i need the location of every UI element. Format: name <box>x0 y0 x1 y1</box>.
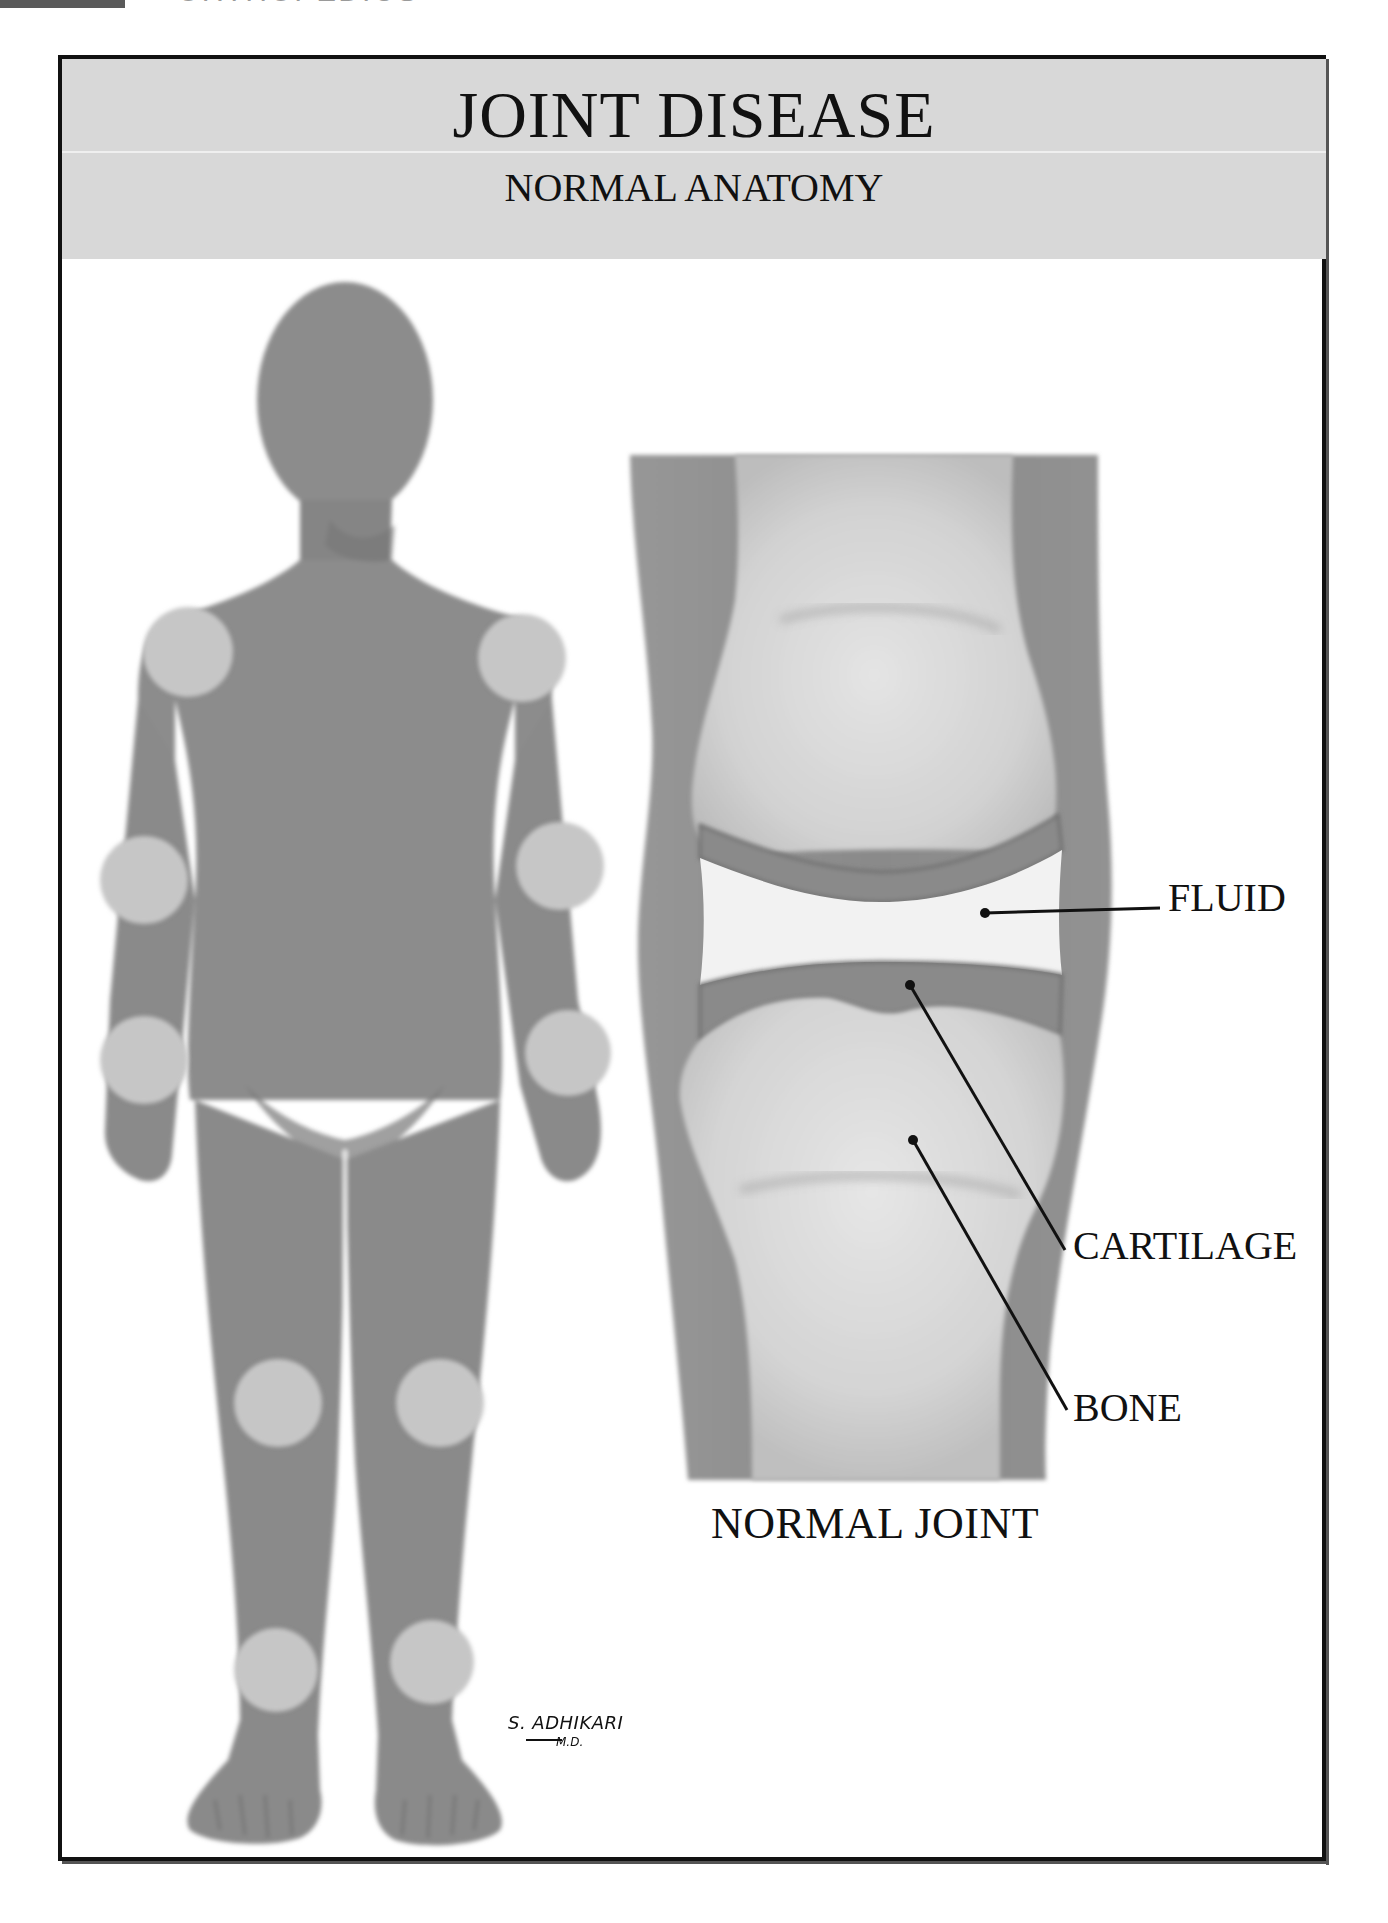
left-leg <box>345 1100 502 1845</box>
signature-name: S. ADHIKARI <box>508 1712 623 1733</box>
signature-underline <box>526 1739 562 1741</box>
femur <box>692 455 1057 855</box>
joint-left-ankle <box>390 1620 474 1704</box>
cartilage-dot <box>905 980 915 990</box>
joint-left-shoulder <box>478 614 566 702</box>
joint-left-wrist <box>525 1010 611 1096</box>
artist-signature: S. ADHIKARI M.D. <box>508 1712 623 1749</box>
joint-right-wrist <box>100 1016 188 1104</box>
head <box>257 282 433 518</box>
diagram-caption: NORMAL JOINT <box>625 1502 1125 1546</box>
left-arm <box>495 700 601 1181</box>
right-arm <box>105 700 195 1181</box>
joint-right-elbow <box>100 836 188 924</box>
fluid-label: FLUID <box>1168 878 1286 918</box>
fluid-dot <box>980 908 990 918</box>
joint-left-elbow <box>516 822 604 910</box>
bone-label: BONE <box>1073 1388 1182 1428</box>
anatomy-illustration <box>0 0 1388 1923</box>
joint-left-knee <box>396 1359 484 1447</box>
right-leg <box>187 1100 345 1844</box>
cartilage-label: CARTILAGE <box>1073 1226 1297 1266</box>
bone-dot <box>908 1135 918 1145</box>
signature-suffix: M.D. <box>556 1735 623 1749</box>
knee-joint-diagram <box>630 455 1160 1480</box>
joint-right-ankle <box>234 1628 318 1712</box>
joint-right-shoulder <box>143 607 233 697</box>
joint-right-knee <box>234 1359 322 1447</box>
